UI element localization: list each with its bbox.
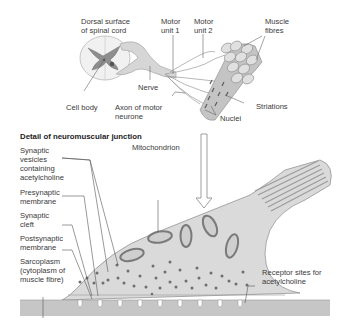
label-postsynaptic-membrane: Postsynaptic membrane: [20, 234, 63, 252]
label-nuclei: Nuclei: [220, 114, 241, 123]
junction-detail: [20, 160, 331, 316]
label-motor-unit-1: Motor unit 1: [161, 17, 180, 35]
label-axon: Axon of motor neurone: [115, 103, 162, 121]
label-presynaptic-membrane: Presynaptic membrane: [20, 188, 60, 206]
label-striations: Striations: [256, 102, 288, 111]
label-cell-body: Cell body: [66, 103, 98, 112]
detail-title: Detail of neuromuscular junction: [20, 132, 142, 141]
zoom-arrow: [196, 134, 212, 208]
label-mitochondrion: Mitochondrion: [132, 143, 180, 152]
label-receptor-sites: Receptor sites for acetylcholine: [262, 268, 322, 286]
label-sarcoplasm: Sarcoplasm (cytoplasm of muscle fibre): [20, 257, 65, 284]
label-dorsal-surface: Dorsal surface of spinal cord: [81, 17, 130, 35]
label-synaptic-cleft: Synaptic cleft: [20, 211, 49, 229]
label-synaptic-vesicles: Synaptic vesicles containing acetylcholi…: [20, 146, 64, 182]
muscle-fibre-bundle: [200, 39, 262, 120]
label-nerve: Nerve: [138, 83, 158, 92]
label-muscle-fibres: Muscle fibres: [265, 17, 289, 35]
label-motor-unit-2: Motor unit 2: [194, 17, 213, 35]
